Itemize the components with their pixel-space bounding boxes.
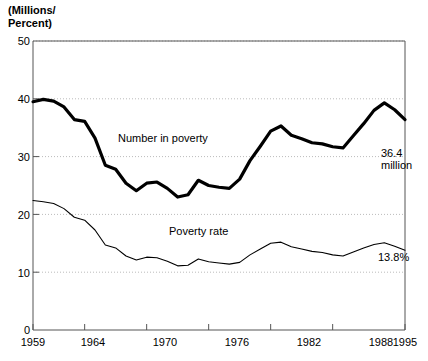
number-in-poverty-label: Number in poverty: [118, 132, 208, 144]
series-line-number-in-poverty: [33, 99, 405, 197]
gridlines: [33, 41, 405, 272]
poverty-chart: (Millions/ Percent) 50 40 30 20 10 0 195…: [0, 0, 428, 361]
number-end-label: 36.4 million: [381, 147, 412, 171]
y-tick-marks: [33, 99, 39, 272]
plot-area: [0, 0, 428, 361]
rate-end-label: 13.8%: [378, 251, 409, 263]
poverty-rate-label: Poverty rate: [169, 225, 228, 237]
plot-frame: [33, 41, 405, 330]
x-tick-marks: [33, 324, 405, 330]
